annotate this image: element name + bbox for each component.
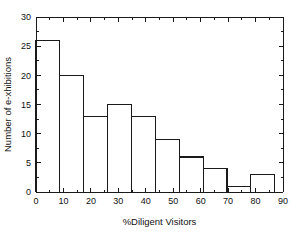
histogram-figure: 0102030405060708090 051015202530 %Dilige… bbox=[0, 0, 293, 232]
y-tick-label: 25 bbox=[21, 41, 31, 51]
x-axis-title: %Diligent Visitors bbox=[123, 216, 197, 227]
x-tick-label: 70 bbox=[223, 196, 233, 206]
x-axis-tick-labels: 0102030405060708090 bbox=[33, 196, 288, 206]
x-tick-label: 90 bbox=[278, 196, 288, 206]
x-tick-label: 30 bbox=[113, 196, 123, 206]
histogram-bars bbox=[36, 40, 275, 192]
y-axis-tick-labels: 051015202530 bbox=[21, 12, 31, 197]
x-tick-label: 80 bbox=[251, 196, 261, 206]
axis-ticks bbox=[36, 17, 283, 192]
x-tick-label: 20 bbox=[86, 196, 96, 206]
x-tick-label: 10 bbox=[58, 196, 68, 206]
y-tick-label: 10 bbox=[21, 129, 31, 139]
y-tick-label: 0 bbox=[26, 187, 31, 197]
plot-frame bbox=[36, 17, 283, 192]
x-tick-label: 0 bbox=[33, 196, 38, 206]
y-tick-label: 30 bbox=[21, 12, 31, 22]
chart-canvas: 0102030405060708090 051015202530 %Dilige… bbox=[0, 0, 293, 232]
x-tick-label: 40 bbox=[141, 196, 151, 206]
y-axis-title: Number of e-xhibitions bbox=[2, 57, 13, 152]
y-tick-label: 20 bbox=[21, 71, 31, 81]
y-tick-label: 5 bbox=[26, 158, 31, 168]
y-tick-label: 15 bbox=[21, 100, 31, 110]
x-tick-label: 50 bbox=[168, 196, 178, 206]
x-tick-label: 60 bbox=[196, 196, 206, 206]
